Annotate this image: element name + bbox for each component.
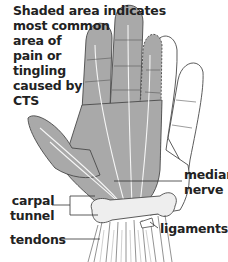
- median-nerve-label-line: median: [184, 167, 228, 182]
- median-nerve-label: median nerve: [184, 167, 228, 197]
- caption-line: pain or: [13, 48, 166, 63]
- median-nerve-label-line: nerve: [184, 182, 228, 197]
- carpal-tunnel-diagram: Shaded area indicates most common area o…: [0, 0, 228, 262]
- caption-line: most common: [13, 18, 166, 33]
- caption-line: CTS: [13, 93, 166, 108]
- tendons-label: tendons: [10, 232, 66, 247]
- caption-line: tingling: [13, 63, 166, 78]
- caption-line: caused by: [13, 78, 166, 93]
- ligaments-label: ligaments: [160, 221, 228, 236]
- carpal-tunnel-label-line: carpal: [10, 193, 54, 208]
- carpal-tunnel-label-line: tunnel: [10, 208, 54, 223]
- caption-text: Shaded area indicates most common area o…: [13, 3, 166, 108]
- carpal-tunnel-label: carpal tunnel: [10, 193, 54, 223]
- caption-line: Shaded area indicates: [13, 3, 166, 18]
- caption-line: area of: [13, 33, 166, 48]
